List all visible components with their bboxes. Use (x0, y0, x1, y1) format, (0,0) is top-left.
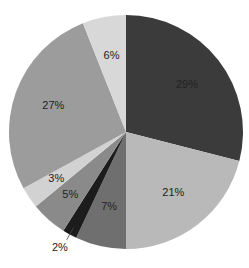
slice-label: 3% (48, 172, 64, 184)
slice-label: 6% (104, 49, 120, 61)
slice-label: 5% (62, 188, 78, 200)
slice-label: 7% (101, 200, 117, 212)
slice-label: 27% (42, 99, 64, 111)
pie-slices (9, 15, 243, 249)
slice-label: 21% (162, 186, 184, 198)
slice-label: 29% (176, 78, 198, 90)
slice-label: 2% (52, 241, 68, 253)
pie-chart: 29%21%7%2%5%3%27%6% (0, 0, 249, 268)
